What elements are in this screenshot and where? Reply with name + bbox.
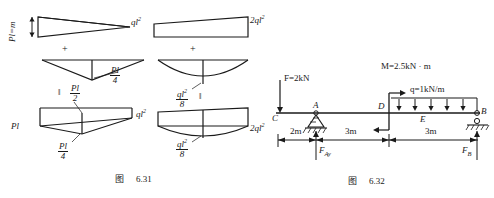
right-top-label-ql2-left-base: ql: [131, 17, 138, 27]
reaction-label-f-ay: FAy: [319, 146, 331, 157]
right-middle-fraction-numerator-base: ql: [177, 89, 184, 99]
figure-6-31-caption-prefix: 图: [115, 174, 124, 184]
right-top-diagram: [152, 14, 262, 44]
right-bottom-fraction-denominator: 8: [176, 149, 188, 159]
left-bottom-label-pl: Pl: [11, 122, 19, 131]
right-bottom-fraction-numerator: ql2: [176, 138, 188, 149]
right-top-label-2ql2-right-exp: 2: [262, 14, 265, 20]
right-middle-fraction-numerator: ql2: [176, 88, 188, 99]
left-middle-fraction-denominator: 4: [110, 75, 120, 85]
beam-diagram: [272, 0, 494, 175]
point-label-e: E: [420, 115, 426, 124]
dimension-label-0: 2m: [290, 127, 302, 136]
figure-6-32-caption-prefix: 图: [348, 176, 357, 186]
right-operator-equals: ‖: [199, 92, 202, 101]
left-operator-plus: +: [62, 44, 68, 54]
figure-6-32-caption: 图 6.32: [348, 174, 385, 187]
right-bottom-label-2ql2-right-base: 2ql: [250, 123, 262, 133]
reaction-label-f-ay-sub: Ay: [325, 150, 332, 157]
right-operator-plus: +: [190, 44, 196, 54]
point-label-d: D: [378, 102, 385, 111]
load-label-distributed: q=1kN/m: [410, 85, 445, 94]
right-bottom-label-2ql2-right: 2ql2: [250, 122, 265, 133]
left-bottom-fraction-pl-over-2: Pl 2: [70, 84, 80, 103]
right-bottom-label-ql2-left-exp: 2: [143, 108, 146, 114]
reaction-label-f-b: FB: [462, 146, 471, 157]
left-bottom-diagram: [28, 104, 148, 140]
left-middle-diagram: [40, 58, 150, 86]
left-bottom-fraction-pl-over-4: Pl 4: [58, 142, 68, 161]
left-top-diagram: [18, 14, 138, 48]
figure-6-32: F=2kN M=2.5kN · m q=1kN/m C A D E B FAy …: [272, 0, 494, 198]
right-top-label-ql2-left: ql2: [131, 16, 141, 27]
right-top-label-ql2-left-exp: 2: [138, 16, 141, 22]
right-bottom-label-2ql2-right-exp: 2: [262, 122, 265, 128]
reaction-label-f-b-sub: B: [468, 150, 472, 157]
left-middle-fraction-pl-over-4: Pl 4: [110, 66, 120, 85]
point-label-a: A: [313, 101, 319, 110]
point-label-b: B: [481, 107, 487, 116]
right-bottom-fraction-numerator-exp: 2: [184, 138, 187, 144]
left-top-label-pl-equals-m: Pl=m: [8, 21, 17, 42]
right-top-label-2ql2-right: 2ql2: [250, 14, 265, 25]
right-bottom-fraction-numerator-base: ql: [177, 139, 184, 149]
right-top-label-2ql2-right-base: 2ql: [250, 15, 262, 25]
left-bottom-bottom-fraction-denominator: 4: [58, 151, 68, 161]
left-bottom-top-fraction-denominator: 2: [70, 93, 80, 103]
right-bottom-fraction-ql2-over-8: ql2 8: [176, 138, 188, 159]
left-bottom-bottom-fraction-numerator: Pl: [58, 142, 68, 151]
figure-6-31-caption: 图 6.31: [115, 172, 152, 185]
load-label-point-force: F=2kN: [284, 74, 310, 83]
load-label-moment: M=2.5kN · m: [381, 62, 431, 71]
left-bottom-top-fraction-numerator: Pl: [70, 84, 80, 93]
point-label-c: C: [272, 114, 278, 123]
figure-6-32-caption-number: 6.32: [369, 176, 385, 186]
right-middle-fraction-numerator-exp: 2: [184, 88, 187, 94]
figure-6-31-caption-number: 6.31: [136, 174, 152, 184]
right-middle-diagram: [156, 58, 266, 88]
left-middle-fraction-numerator: Pl: [110, 66, 120, 75]
figure-6-31: Pl=m + Pl 4 ‖ Pl 2 Pl Pl 4: [0, 0, 270, 198]
dimension-label-1: 3m: [345, 127, 357, 136]
right-bottom-label-ql2-left: ql2: [136, 108, 146, 119]
right-bottom-label-ql2-left-base: ql: [136, 109, 143, 119]
dimension-label-2: 3m: [425, 127, 437, 136]
left-operator-equals: ‖: [58, 88, 61, 97]
